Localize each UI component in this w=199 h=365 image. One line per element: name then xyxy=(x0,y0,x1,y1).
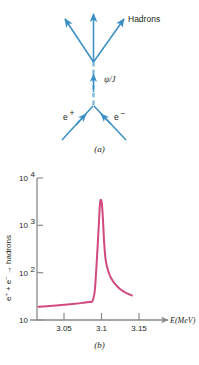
svg-text:10: 10 xyxy=(19,269,28,278)
y-axis-title-plus: + xyxy=(4,284,13,293)
x-axis-ticks xyxy=(64,313,139,320)
y-axis-title-arrow: → xyxy=(4,264,13,276)
y-axis-title-tail: hadrons xyxy=(4,235,13,264)
resonance-chart-svg: 10 4 10 3 10 2 10 xyxy=(0,168,199,365)
svg-text:4: 4 xyxy=(31,170,36,179)
svg-text:e+ + e− → hadrons: e+ + e− → hadrons xyxy=(3,235,13,301)
electron-charge-superscript: − xyxy=(121,108,126,118)
svg-text:2: 2 xyxy=(31,265,36,274)
feynman-diagram-svg: Hadrons ψ/J e + e − xyxy=(0,0,199,168)
positron-direction-arrow xyxy=(76,114,86,125)
positron-label: e xyxy=(63,112,68,122)
hadron-jet-right-arrow xyxy=(94,19,125,62)
panel-b-caption: (b) xyxy=(0,340,199,350)
positron-label-group: e + xyxy=(63,108,75,122)
psi-j-label: ψ/J xyxy=(104,74,117,84)
positron-charge-superscript: + xyxy=(70,108,75,118)
chart-axes xyxy=(30,178,168,320)
hadrons-label: Hadrons xyxy=(128,14,160,24)
y-tick-label-10: 10 xyxy=(19,316,28,325)
y-axis-title: e+ + e− → hadrons xyxy=(3,235,13,301)
x-axis-title-text: E(MeV) xyxy=(169,316,196,325)
y-tick-label-10000: 10 4 xyxy=(19,170,36,183)
hadron-jet-lines xyxy=(65,14,124,62)
svg-text:10: 10 xyxy=(19,174,28,183)
hadron-jet-left-arrow xyxy=(65,19,94,62)
y-axis-ticks xyxy=(37,178,43,320)
panel-b-resonance-chart: 10 4 10 3 10 2 10 xyxy=(0,168,199,365)
panel-a-feynman-diagram: Hadrons ψ/J e + e − xyxy=(0,0,199,168)
resonance-curve xyxy=(39,200,132,307)
y-tick-label-100: 10 2 xyxy=(19,265,36,278)
svg-text:10: 10 xyxy=(19,316,28,325)
x-axis-title: E(MeV) xyxy=(169,316,196,325)
x-axis-tick-labels: 3.05 3.1 3.15 xyxy=(56,324,147,333)
panel-a-caption: (a) xyxy=(0,144,199,154)
svg-text:E(MeV): E(MeV) xyxy=(169,316,196,325)
electron-direction-arrow xyxy=(101,114,111,124)
figure-root: Hadrons ψ/J e + e − ( xyxy=(0,0,199,365)
x-tick-label-3-15: 3.15 xyxy=(131,324,147,333)
electron-label-group: e − xyxy=(114,108,126,122)
y-axis-tick-labels: 10 4 10 3 10 2 10 xyxy=(19,170,36,325)
svg-text:3: 3 xyxy=(31,217,36,226)
x-tick-label-3-05: 3.05 xyxy=(56,324,72,333)
svg-text:10: 10 xyxy=(19,221,28,230)
y-tick-label-1000: 10 3 xyxy=(19,217,36,230)
electron-label: e xyxy=(114,112,119,122)
x-tick-label-3-1: 3.1 xyxy=(96,324,108,333)
